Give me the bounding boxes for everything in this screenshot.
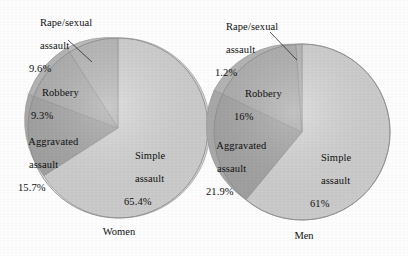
women-rape-percent: 9.6% bbox=[29, 63, 92, 74]
pie-chart-figure: Rape/sexual assault 9.6% Robbery 9.3% Ag… bbox=[0, 0, 408, 256]
women-label-simple-assault: Simple assault 65.4% bbox=[124, 139, 165, 230]
men-simple-percent: 61% bbox=[310, 198, 351, 209]
men-robbery-label-line1: Robbery bbox=[245, 88, 282, 99]
men-aggravated-label-line1: Aggravated bbox=[216, 140, 266, 151]
men-rape-label-line1: Rape/sexual bbox=[226, 21, 278, 32]
women-chart-caption: Women bbox=[73, 226, 165, 237]
women-rape-label-line1: Rape/sexual bbox=[40, 17, 92, 28]
men-rape-label-line2: assault bbox=[226, 44, 255, 55]
women-simple-label-line1: Simple bbox=[135, 150, 165, 161]
men-simple-label-line2: assault bbox=[321, 175, 350, 186]
women-robbery-percent: 9.3% bbox=[31, 110, 79, 121]
men-label-simple-assault: Simple assault 61% bbox=[310, 141, 351, 232]
women-rape-label-line2: assault bbox=[40, 40, 69, 51]
men-aggravated-label-line2: assault bbox=[217, 163, 246, 174]
women-simple-percent: 65.4% bbox=[124, 196, 165, 207]
women-label-aggravated-assault: Aggravated assault 15.7% bbox=[18, 125, 78, 216]
women-simple-label-line2: assault bbox=[135, 173, 164, 184]
women-robbery-label-line1: Robbery bbox=[42, 87, 79, 98]
men-label-aggravated-assault: Aggravated assault 21.9% bbox=[206, 129, 266, 220]
women-aggravated-label-line2: assault bbox=[29, 159, 58, 170]
men-chart-caption: Men bbox=[258, 230, 350, 241]
men-simple-label-line1: Simple bbox=[321, 152, 351, 163]
men-aggravated-percent: 21.9% bbox=[206, 186, 266, 197]
women-aggravated-label-line1: Aggravated bbox=[28, 136, 78, 147]
women-aggravated-percent: 15.7% bbox=[18, 182, 78, 193]
men-robbery-percent: 16% bbox=[234, 111, 282, 122]
